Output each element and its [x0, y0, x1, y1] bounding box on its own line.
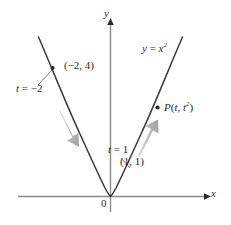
x-axis-arrowhead-icon: [204, 193, 211, 200]
point-marker-a: [50, 66, 54, 70]
parabola-figure: y x 0 y = x2 (−2, 4) (1, 1) P(t, t2) t =…: [0, 0, 231, 225]
point-p-name: P: [164, 101, 171, 113]
t-equals-a: =: [19, 82, 31, 94]
y-axis: [107, 18, 114, 212]
t-value-label-minus-2: t = −2: [16, 83, 43, 94]
origin-label: 0: [101, 198, 107, 209]
point-label-p: P(t, t2): [164, 101, 193, 113]
t-number-b: 1: [123, 143, 129, 155]
point-label-1-1: (1, 1): [120, 156, 144, 167]
figure-canvas: [0, 0, 231, 225]
curve-equation-exponent: 2: [164, 41, 167, 48]
curve-equation-equals: =: [147, 42, 159, 54]
point-p-paren-close: ): [189, 101, 193, 113]
point-marker-p: [155, 105, 159, 109]
point-label-minus2-4: (−2, 4): [64, 60, 94, 71]
t-equals-b: =: [111, 143, 123, 155]
t-value-label-1: t = 1: [108, 144, 128, 155]
y-axis-label: y: [104, 8, 109, 19]
x-axis-label: x: [211, 188, 216, 199]
t-number-a: −2: [31, 82, 43, 94]
direction-arrow-left-icon: [60, 110, 80, 147]
x-axis: [18, 193, 211, 200]
y-axis-arrowhead-icon: [107, 18, 114, 25]
direction-arrow-right-icon: [138, 120, 159, 157]
curve-equation-label: y = x2: [142, 42, 167, 54]
